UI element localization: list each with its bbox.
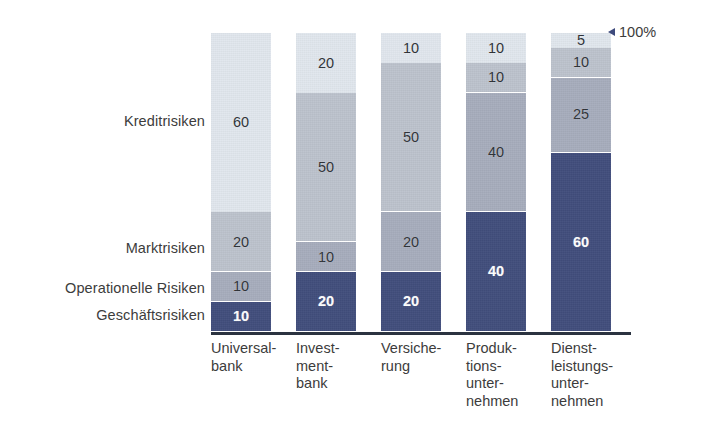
bar-segment: 20: [296, 33, 356, 93]
x-axis-label-2: Versiche- rung: [381, 340, 459, 375]
x-axis-label-3: Produk- tions- unter- nehmen: [466, 340, 544, 410]
stacked-bar-chart: KreditrisikenMarktrisikenOperationelle R…: [0, 0, 707, 440]
category-label-0: Kreditrisiken: [124, 113, 205, 129]
bar-column-1: 20501020: [296, 33, 356, 332]
bar-segment: 40: [466, 93, 526, 213]
x-axis-label-1: Invest- ment- bank: [296, 340, 374, 393]
bar-segment: 60: [211, 33, 271, 212]
bar-column-2: 10502020: [381, 33, 441, 332]
bar-segment-value: 50: [318, 160, 334, 175]
bar-segment: 10: [296, 242, 356, 272]
bar-segment-value: 20: [318, 56, 334, 71]
bar-segment-value: 10: [488, 41, 504, 56]
bar-segment-value: 10: [233, 279, 249, 294]
bar-segment-value: 10: [233, 309, 249, 324]
bar-segment: 5: [551, 33, 611, 48]
bar-segment: 60: [551, 153, 611, 332]
bar-segment: 10: [211, 302, 271, 332]
bar-segment-value: 60: [233, 115, 249, 130]
x-axis-label-4: Dienst- leistungs- unter- nehmen: [551, 340, 629, 410]
bar-segment: 10: [551, 48, 611, 78]
bar-column-3: 10104040: [466, 33, 526, 332]
bar-segment: 10: [466, 63, 526, 93]
bar-segment: 40: [466, 212, 526, 332]
bar-segment-value: 10: [573, 55, 589, 70]
bar-segment-value: 20: [233, 235, 249, 250]
bar-segment: 25: [551, 78, 611, 153]
bar-segment-value: 20: [403, 294, 419, 309]
bar-column-0: 60201010: [211, 33, 271, 332]
x-axis-labels: Universal- bankInvest- ment- bankVersich…: [211, 340, 651, 436]
bar-segment-value: 20: [403, 235, 419, 250]
bar-segment-value: 40: [488, 264, 504, 279]
category-label-1: Marktrisiken: [126, 240, 205, 256]
bar-segment-value: 10: [403, 41, 419, 56]
bar-segment: 50: [296, 93, 356, 243]
bar-segment: 10: [211, 272, 271, 302]
category-label-2: Operationelle Risiken: [65, 280, 205, 296]
total-percent-annotation: 100%: [608, 24, 656, 40]
bar-segment: 20: [381, 272, 441, 332]
category-label-3: Geschäftsrisiken: [96, 307, 205, 323]
bar-segment-value: 50: [403, 130, 419, 145]
bar-segment-value: 40: [488, 145, 504, 160]
bar-segment-value: 60: [573, 235, 589, 250]
bar-segment: 10: [466, 33, 526, 63]
bar-segment-value: 10: [488, 70, 504, 85]
x-axis-line: [211, 332, 631, 335]
x-axis-label-0: Universal- bank: [211, 340, 289, 375]
total-percent-label: 100%: [619, 24, 656, 40]
bar-segment: 20: [381, 212, 441, 272]
bar-segment-value: 25: [573, 107, 589, 122]
bar-segment: 20: [296, 272, 356, 332]
bar-segment-value: 20: [318, 294, 334, 309]
bar-segment: 50: [381, 63, 441, 213]
category-legend-labels: KreditrisikenMarktrisikenOperationelle R…: [10, 0, 205, 340]
bar-segment: 10: [381, 33, 441, 63]
plot-area: 602010102050102010502020101040405102560: [211, 33, 631, 332]
triangle-left-icon: [608, 28, 615, 36]
bar-segment-value: 5: [577, 33, 585, 48]
bar-column-4: 5102560: [551, 33, 611, 332]
bar-segment-value: 10: [318, 250, 334, 265]
bar-segment: 20: [211, 212, 271, 272]
